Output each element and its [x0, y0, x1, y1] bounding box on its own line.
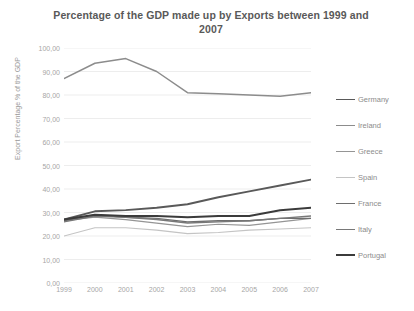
legend-label: Greece	[358, 147, 383, 156]
y-axis-tick-label: 90,00	[20, 68, 60, 75]
legend-item-italy[interactable]: Italy	[336, 216, 412, 242]
line-chart: Percentage of the GDP made up by Exports…	[0, 0, 414, 311]
legend-swatch-spain	[336, 177, 355, 178]
legend-item-france[interactable]: France	[336, 190, 412, 216]
y-axis-tick-label: 40,00	[20, 186, 60, 193]
y-axis-tick-label: 60,00	[20, 139, 60, 146]
legend-swatch-italy	[336, 229, 355, 230]
chart-legend: GermanyIrelandGreeceSpainFranceItalyPort…	[336, 86, 412, 268]
y-axis-tick-label: 10,00	[20, 256, 60, 263]
y-axis-tick-label: 80,00	[20, 92, 60, 99]
legend-swatch-greece	[336, 151, 355, 152]
x-axis-tick-label: 2007	[291, 286, 331, 293]
y-axis-tick-labels: 100,0090,0080,0070,0060,0050,0040,0030,0…	[14, 48, 60, 283]
legend-item-germany[interactable]: Germany	[336, 86, 412, 112]
legend-item-greece[interactable]: Greece	[336, 138, 412, 164]
legend-item-spain[interactable]: Spain	[336, 164, 412, 190]
chart-title: Percentage of the GDP made up by Exports…	[46, 8, 376, 36]
legend-label: Portugal	[358, 251, 386, 260]
series-lines	[64, 48, 311, 283]
series-line-ireland	[64, 59, 311, 97]
legend-swatch-germany	[336, 99, 355, 100]
legend-item-portugal[interactable]: Portugal	[336, 242, 412, 268]
legend-label: Spain	[358, 173, 377, 182]
legend-label: Italy	[358, 225, 372, 234]
y-axis-tick-label: 50,00	[20, 162, 60, 169]
legend-label: Ireland	[358, 121, 381, 130]
chart-title-line-1: Percentage of the GDP made up by Exports…	[53, 9, 346, 21]
legend-label: Germany	[358, 95, 389, 104]
y-axis-tick-label: 100,00	[20, 45, 60, 52]
y-axis-tick-label: 30,00	[20, 209, 60, 216]
plot-area	[64, 48, 311, 283]
y-axis-tick-label: 70,00	[20, 115, 60, 122]
series-line-germany	[64, 180, 311, 220]
y-axis-tick-label: 20,00	[20, 233, 60, 240]
legend-swatch-france	[336, 203, 355, 204]
legend-swatch-ireland	[336, 125, 355, 126]
legend-swatch-portugal	[336, 254, 355, 256]
legend-item-ireland[interactable]: Ireland	[336, 112, 412, 138]
x-axis-tick-labels: 199920002001200220032004200520062007	[64, 286, 311, 302]
legend-label: France	[358, 199, 381, 208]
series-line-spain	[64, 228, 311, 236]
